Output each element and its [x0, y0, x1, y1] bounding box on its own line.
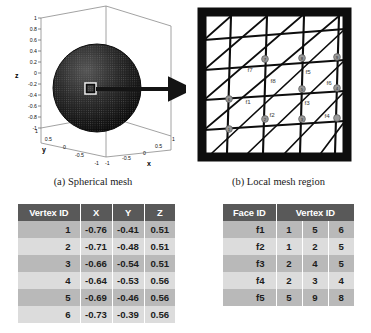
col-header-x: X [80, 204, 112, 221]
cell-v3: 4 [328, 272, 354, 289]
svg-text:0: 0 [143, 150, 146, 156]
table-row: f4 2 3 4 [223, 272, 354, 289]
cell-z: 0.56 [144, 272, 175, 289]
svg-text:0.6: 0.6 [30, 37, 37, 43]
svg-text:-0.4: -0.4 [28, 92, 37, 98]
cell-v1: 2 [276, 255, 302, 272]
svg-text:-0.6: -0.6 [28, 103, 37, 109]
svg-text:-0.8: -0.8 [28, 114, 37, 120]
cell-face-id: f5 [223, 289, 276, 306]
panel-local-mesh-region: f7 f8 f5 f6 f1 f3 f2 f4 [186, 0, 371, 175]
face-label-f5: f5 [305, 68, 311, 75]
svg-text:-1: -1 [94, 160, 99, 166]
cell-v2: 3 [302, 272, 328, 289]
svg-text:-0.5: -0.5 [75, 152, 84, 158]
caption-panel-a: (a) Spherical mesh [0, 176, 186, 187]
cell-v2: 2 [302, 238, 328, 255]
cell-vertex-id: 3 [18, 255, 80, 272]
svg-text:-0.5: -0.5 [122, 155, 131, 161]
cell-x: -0.73 [80, 306, 112, 323]
cell-y: -0.46 [112, 289, 144, 306]
cell-x: -0.76 [80, 221, 112, 238]
cell-face-id: f2 [223, 238, 276, 255]
cell-v1: 5 [276, 289, 302, 306]
svg-text:1: 1 [172, 136, 175, 142]
cell-v2: 5 [302, 221, 328, 238]
svg-text:0: 0 [63, 144, 66, 150]
cell-z: 0.51 [144, 238, 175, 255]
face-label-f3: f3 [304, 99, 310, 106]
cell-v3: 8 [328, 289, 354, 306]
svg-text:0.5: 0.5 [155, 143, 162, 149]
cell-vertex-id: 4 [18, 272, 80, 289]
cell-z: 0.56 [144, 306, 175, 323]
z-axis-title: z [15, 72, 19, 79]
cell-x: -0.66 [80, 255, 112, 272]
face-label-f6: f6 [326, 79, 332, 86]
table-row: 1 -0.76 -0.41 0.51 [18, 221, 175, 238]
figure-root: 1 0.8 0.6 0.4 0.2 0 -0.2 -0.4 -0.6 -0.8 … [0, 0, 371, 333]
col-header-y: Y [112, 204, 144, 221]
svg-text:0.5: 0.5 [45, 136, 52, 142]
svg-text:0.2: 0.2 [30, 59, 37, 65]
cell-y: -0.39 [112, 306, 144, 323]
table-row: f1 1 5 6 [223, 221, 354, 238]
cell-face-id: f1 [223, 221, 276, 238]
table-row: f5 5 9 8 [223, 289, 354, 306]
svg-text:0.4: 0.4 [30, 48, 37, 54]
cell-vertex-id: 5 [18, 289, 80, 306]
face-label-f7: f7 [247, 66, 253, 73]
cell-z: 0.51 [144, 221, 175, 238]
cell-x: -0.69 [80, 289, 112, 306]
cell-y: -0.41 [112, 221, 144, 238]
z-axis-ticks: 1 0.8 0.6 0.4 0.2 0 -0.2 -0.4 -0.6 -0.8 … [15, 15, 41, 131]
x-axis-title: x [147, 160, 151, 167]
cell-v2: 9 [302, 289, 328, 306]
x-axis-ticks: -1 -0.5 0 0.5 1 x [105, 136, 175, 167]
table-row: 6 -0.73 -0.39 0.56 [18, 306, 175, 323]
table-row: 3 -0.66 -0.54 0.51 [18, 255, 175, 272]
svg-text:1: 1 [35, 128, 38, 134]
svg-text:-0.2: -0.2 [28, 81, 37, 87]
cell-face-id: f3 [223, 255, 276, 272]
cell-v3: 6 [328, 221, 354, 238]
cell-x: -0.64 [80, 272, 112, 289]
vertex-coordinate-table: Vertex ID X Y Z 1 -0.76 -0.41 0.51 2 -0.… [18, 204, 175, 323]
table-header-row: Face ID Vertex ID [223, 204, 354, 221]
cell-x: -0.71 [80, 238, 112, 255]
svg-text:1: 1 [34, 15, 37, 21]
y-axis-title: y [42, 146, 46, 154]
face-label-f2: f2 [269, 111, 275, 118]
table-row: 4 -0.64 -0.53 0.56 [18, 272, 175, 289]
face-label-f4: f4 [324, 112, 330, 119]
col-header-vertex-id: Vertex ID [276, 204, 354, 221]
face-connectivity-table: Face ID Vertex ID f1 1 5 6 f2 1 2 5 f3 2… [223, 204, 354, 306]
cell-face-id: f4 [223, 272, 276, 289]
cell-vertex-id: 2 [18, 238, 80, 255]
col-header-vertex-id: Vertex ID [18, 204, 80, 221]
cell-z: 0.51 [144, 255, 175, 272]
cell-v3: 5 [328, 238, 354, 255]
cell-v2: 4 [302, 255, 328, 272]
svg-text:-1: -1 [105, 160, 110, 166]
cell-vertex-id: 6 [18, 306, 80, 323]
cell-y: -0.53 [112, 272, 144, 289]
cell-v1: 1 [276, 238, 302, 255]
face-label-f8: f8 [270, 77, 276, 84]
table-row: 2 -0.71 -0.48 0.51 [18, 238, 175, 255]
cell-vertex-id: 1 [18, 221, 80, 238]
col-header-face-id: Face ID [223, 204, 276, 221]
col-header-z: Z [144, 204, 175, 221]
table-row: f3 2 4 5 [223, 255, 354, 272]
face-label-f1: f1 [245, 98, 251, 105]
cell-y: -0.54 [112, 255, 144, 272]
table-row: f2 1 2 5 [223, 238, 354, 255]
table-row: 5 -0.69 -0.46 0.56 [18, 289, 175, 306]
panel-spherical-mesh: 1 0.8 0.6 0.4 0.2 0 -0.2 -0.4 -0.6 -0.8 … [0, 0, 186, 175]
svg-text:0.8: 0.8 [30, 26, 37, 32]
y-axis-ticks: 1 0.5 0 -0.5 -1 y [35, 128, 99, 166]
cell-z: 0.56 [144, 289, 175, 306]
table-header-row: Vertex ID X Y Z [18, 204, 175, 221]
cell-v1: 2 [276, 272, 302, 289]
svg-text:0: 0 [34, 70, 37, 76]
